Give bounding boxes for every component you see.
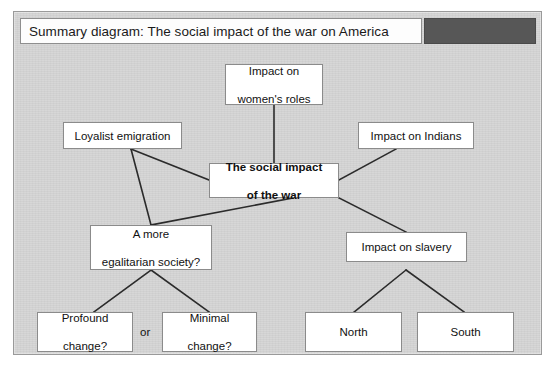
edge-egalitarian-profound: [94, 270, 151, 312]
node-south-label: South: [422, 325, 509, 339]
edge-center-slavery: [339, 198, 406, 232]
node-womens-roles[interactable]: Impact onwomen's roles: [225, 64, 323, 105]
diagram-title-bar: Summary diagram: The social impact of th…: [20, 18, 536, 44]
node-south[interactable]: South: [417, 312, 514, 352]
node-loyalist-emigration[interactable]: Loyalist emigration: [63, 122, 182, 149]
node-egalitarian-society-label: A moreegalitarian society?: [95, 227, 207, 269]
node-womens-roles-line2: women's roles: [230, 92, 318, 106]
edge-loyalist-egalitarian: [131, 149, 151, 225]
node-profound-line2: change?: [42, 339, 128, 353]
title-accent-block: [424, 18, 536, 44]
node-north[interactable]: North: [305, 312, 402, 352]
node-egalitarian-line2: egalitarian society?: [95, 255, 207, 269]
node-north-label: North: [310, 325, 397, 339]
diagram-canvas: Summary diagram: The social impact of th…: [13, 11, 542, 355]
edge-egalitarian-minimal: [151, 270, 209, 312]
node-minimal-change-label: Minimalchange?: [167, 311, 252, 353]
node-womens-roles-label: Impact onwomen's roles: [230, 64, 318, 106]
node-impact-on-indians-label: Impact on Indians: [363, 129, 469, 143]
screenshot-root: Summary diagram: The social impact of th…: [0, 0, 555, 378]
node-minimal-line2: change?: [167, 339, 252, 353]
page-title: Summary diagram: The social impact of th…: [29, 24, 389, 39]
node-minimal-change[interactable]: Minimalchange?: [162, 312, 257, 352]
node-center-line1: The social impact: [214, 160, 334, 174]
node-womens-roles-line1: Impact on: [230, 64, 318, 78]
title-box: Summary diagram: The social impact of th…: [20, 18, 422, 44]
node-profound-change-label: Profoundchange?: [42, 311, 128, 353]
node-center-social-impact-label: The social impactof the war: [214, 160, 334, 202]
node-egalitarian-line1: A more: [95, 227, 207, 241]
node-impact-on-indians[interactable]: Impact on Indians: [358, 122, 474, 149]
edge-slavery-south: [406, 270, 464, 312]
edge-center-loyalist: [131, 149, 209, 180]
node-egalitarian-society[interactable]: A moreegalitarian society?: [90, 225, 212, 270]
node-loyalist-emigration-label: Loyalist emigration: [68, 129, 177, 143]
node-center-social-impact[interactable]: The social impactof the war: [209, 163, 339, 198]
node-minimal-line1: Minimal: [167, 311, 252, 325]
edge-slavery-north: [354, 270, 406, 312]
edge-center-indians: [339, 149, 396, 180]
node-impact-on-slavery[interactable]: Impact on slavery: [346, 232, 467, 262]
node-profound-line1: Profound: [42, 311, 128, 325]
node-center-line2: of the war: [214, 188, 334, 202]
or-connector-label: or: [140, 325, 150, 339]
node-profound-change[interactable]: Profoundchange?: [37, 312, 133, 352]
node-impact-on-slavery-label: Impact on slavery: [351, 240, 462, 254]
edge-center-egalitarian: [151, 198, 293, 225]
